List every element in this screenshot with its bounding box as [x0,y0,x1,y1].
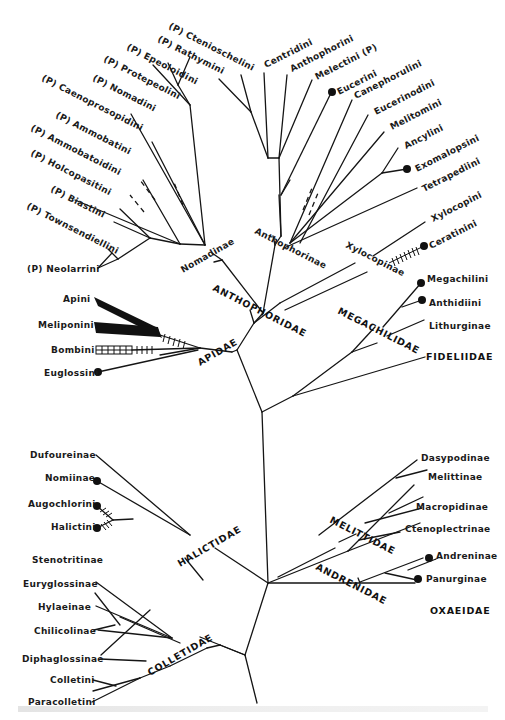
label-bombini: Bombini [51,345,95,355]
label-megachilidae: MEGACHILIDAE [336,305,422,356]
labels-subfamily-groups: Nomadinae Anthophorinae Xylocopinae [179,226,407,278]
labels-anthophorinae: Centridini Anthophorini Melectini (P) Eu… [262,33,482,194]
exomalopsini-dot [403,165,411,173]
label-lithurginae: Lithurginae [429,321,491,331]
label-stenotritinae: Stenotritinae [32,555,103,565]
label-andreninae: Andreninae [436,551,497,561]
label-neolarrini: (P) Neolarrini [27,264,100,274]
label-townsendiellini: (P) Townsendiellini [25,201,120,256]
anthidiini-dot [418,296,426,304]
label-fideliidae: FIDELIIDAE [426,351,493,362]
label-xylocopini: Xylocopini [429,190,483,224]
andreninae-dot [425,554,433,562]
label-protepeolini: (P) Protepeolini [102,54,182,101]
label-melittinae: Melittinae [428,472,483,482]
megachilini-dot [417,279,425,287]
label-diphaglossinae: Diphaglossinae [22,654,104,664]
labels-nomadinae: (P) Ctenioschelini (P) Rathymini (P) Epe… [25,21,256,274]
label-nomiinae: Nomiinae [45,473,95,483]
label-dufoureinae: Dufoureinae [30,450,96,460]
label-ctenoplectrinae: Ctenoplectrinae [405,524,490,534]
label-macropidinae: Macropidinae [416,502,488,512]
label-nomadinae: Nomadinae [179,236,236,275]
melittidae-andrenidae-clade [268,460,436,583]
label-halictidae: HALICTIDAE [176,523,244,568]
labels-colletidae-tribes: Stenotritinae Euryglossinae Hylaeinae Ch… [22,555,104,707]
apidae-clade [94,297,232,376]
label-oxaeidae: OXAEIDAE [430,605,491,616]
trunk [220,323,268,703]
labels-megachilidae-tribes: Megachilini Anthidiini Lithurginae [427,274,491,331]
label-euglossini: Euglossini [44,368,99,378]
label-halictini: Halictini [51,522,96,532]
label-hylaeinae: Hylaeinae [38,602,91,612]
figure-caption-fragment [18,706,488,712]
colletidae-clade [92,558,245,702]
label-holcopasitini: (P) Holcopasitini [29,148,113,197]
label-ancylini: Ancylini [402,123,445,151]
label-megachilini: Megachilini [427,274,488,284]
label-anthidiini: Anthidiini [429,298,481,308]
label-colletini: Colletini [50,675,95,685]
panurginae-dot [414,575,422,583]
labels-apidae-tribes: Apini Meliponini Bombini Euglossini [38,294,99,378]
phylogeny-tree: (P) Ctenioschelini (P) Rathymini (P) Epe… [0,0,505,720]
label-panurginae: Panurginae [426,574,487,584]
labels-halictidae-tribes: Dufoureinae Nomiinae Augochlorini Halict… [28,450,96,532]
label-apini: Apini [63,294,91,304]
ceratinini-dot [420,242,428,250]
labels-xylocopinae: Xylocopini Ceratinini [420,190,483,251]
label-dasypodinae: Dasypodinae [421,453,490,463]
label-euryglossinae: Euryglossinae [23,579,98,589]
label-colletidae: COLLETIDAE [146,632,215,678]
eucerini-dot [328,88,336,96]
labels-melittidae-tribes: Dasypodinae Melittinae Macropidinae Cten… [405,453,490,534]
label-augochlorini: Augochlorini [28,499,96,509]
label-chilicolinae: Chilicolinae [34,626,96,636]
label-meliponini: Meliponini [38,320,94,330]
bombini-grid-hatch [96,346,132,354]
halictini-social-hatch [100,508,112,530]
label-anthophoridae: ANTHOPHORIDAE [211,282,308,339]
labels-andrenidae-tribes: Andreninae Panurginae [426,551,497,584]
